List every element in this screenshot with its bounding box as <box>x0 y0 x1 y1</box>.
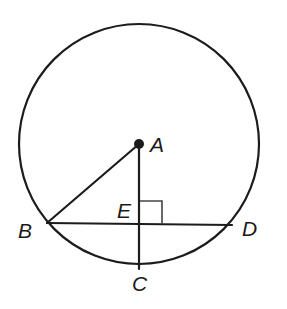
right-angle-marker <box>140 201 162 224</box>
label-a: A <box>148 133 164 156</box>
geometry-diagram: A B E D C <box>0 0 287 309</box>
center-point-a <box>134 139 144 149</box>
label-d: D <box>242 217 257 240</box>
label-b: B <box>18 219 32 242</box>
label-c: C <box>132 272 148 295</box>
label-e: E <box>117 199 132 222</box>
